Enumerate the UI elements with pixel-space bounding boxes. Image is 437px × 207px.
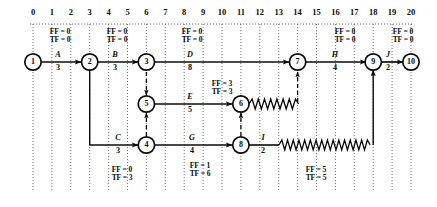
float-tf-B: TF = 0 [107,36,128,44]
float-tf-I: TF = 5 [306,174,327,182]
node-label-6: 6 [239,100,243,108]
tick-2: 2 [69,8,73,17]
float-tf-J: TF = 0 [393,36,414,44]
float-tf-A: TF = 0 [50,36,71,44]
node-label-9: 9 [371,58,375,66]
activity-duration-A: 3 [56,64,60,73]
activity-duration-D: 8 [188,64,192,73]
tick-3: 3 [88,8,92,17]
tick-18: 18 [369,8,378,17]
activity-duration-E: 5 [188,106,192,115]
node-label-3: 3 [144,58,148,66]
activity-label-H: H [332,51,338,60]
float-wave-I [279,140,370,150]
float-tf-G: TF = 6 [190,170,211,178]
activity-duration-H: 4 [333,64,337,73]
float-tf-H: TF = 0 [335,36,356,44]
activity-label-G: G [189,134,195,143]
tick-1: 1 [50,8,54,17]
tick-15: 15 [312,8,321,17]
tick-17: 17 [350,8,359,17]
network-diagram-canvas: 0 1 2 3 4 5 6 7 8 9 10 11 12 13 14 15 16… [0,0,437,207]
node-label-7: 7 [296,58,300,66]
link-node2-to-bottom [89,70,138,145]
node-label-8: 8 [239,141,243,149]
activity-label-C: C [115,134,120,143]
node-label-1: 1 [31,58,35,66]
activity-label-D: D [187,51,193,60]
activity-duration-G: 4 [190,147,194,156]
activity-duration-C: 3 [116,147,120,156]
float-tf-E: TF = 3 [212,88,233,96]
tick-12: 12 [256,8,265,17]
activity-label-A: A [55,51,60,60]
activity-label-E: E [187,93,192,102]
tick-8: 8 [182,8,186,17]
float-wave-E [249,99,299,109]
tick-14: 14 [293,8,302,17]
tick-13: 13 [274,8,283,17]
tick-5: 5 [125,8,129,17]
float-tf-C: TF = 3 [112,174,133,182]
tick-19: 19 [388,8,397,17]
activity-label-J: J [386,51,390,60]
tick-11: 11 [237,8,245,17]
activity-duration-J: 2 [386,64,390,73]
tick-0: 0 [31,8,35,17]
float-tf-D: TF = 0 [182,36,203,44]
tick-4: 4 [106,8,110,17]
tick-16: 16 [331,8,340,17]
tick-7: 7 [163,8,167,17]
node-label-4: 4 [144,141,148,149]
activity-duration-B: 3 [113,64,117,73]
tick-20: 20 [407,8,416,17]
tick-6: 6 [144,8,148,17]
tick-9: 9 [201,8,205,17]
activity-duration-I: 2 [261,147,265,156]
node-label-10: 10 [407,58,415,66]
node-label-5: 5 [144,100,148,108]
activity-label-B: B [112,51,117,60]
activity-label-I: I [261,134,264,143]
node-label-2: 2 [88,58,92,66]
tick-10: 10 [218,8,227,17]
